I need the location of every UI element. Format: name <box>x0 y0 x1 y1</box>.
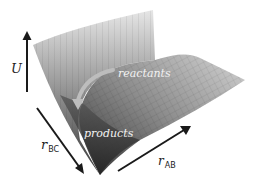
potential-energy-surface <box>0 0 261 184</box>
r-bc-axis-label: rBC <box>41 138 59 154</box>
r-ab-axis-label: rAB <box>158 155 176 170</box>
u-axis-arrow <box>23 31 32 92</box>
reactants-label: reactants <box>118 68 171 79</box>
r-bc-symbol: r <box>41 137 47 152</box>
r-bc-subscript: BC <box>48 145 59 154</box>
r-ab-subscript: AB <box>165 161 176 170</box>
r-ab-symbol: r <box>158 154 164 168</box>
u-axis-label: U <box>11 62 22 75</box>
products-label: products <box>84 128 133 139</box>
